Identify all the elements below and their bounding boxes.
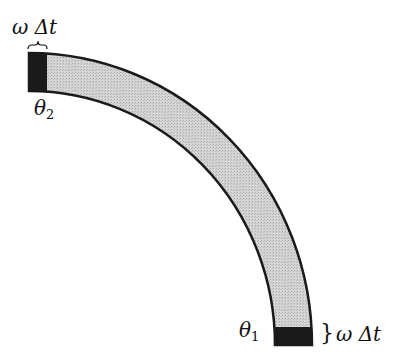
bottom-width-label: ω Δt xyxy=(336,324,381,344)
curved-band xyxy=(29,53,312,345)
theta1-subscript: 1 xyxy=(251,329,259,344)
top-end-segment xyxy=(29,53,47,92)
top-width-label: ω Δt xyxy=(12,17,57,37)
theta2-symbol: θ xyxy=(34,96,46,120)
bottom-brace-icon: } xyxy=(320,322,334,344)
theta2-label: θ2 xyxy=(34,98,54,121)
theta1-symbol: θ xyxy=(239,318,251,342)
theta1-label: θ1 xyxy=(239,320,259,343)
top-brace-icon xyxy=(28,41,47,49)
theta2-subscript: 2 xyxy=(46,107,54,122)
curved-band-diagram xyxy=(0,0,402,364)
bottom-end-segment xyxy=(275,327,312,345)
